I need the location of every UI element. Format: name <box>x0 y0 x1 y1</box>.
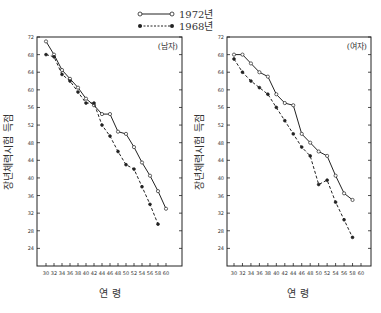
y-axis-title: 장년체력시험 득점 <box>194 114 205 189</box>
x-tick-label: 36 <box>256 270 262 276</box>
y-tick-label: 36 <box>218 193 224 199</box>
y-tick-label: 44 <box>218 157 224 163</box>
plot-frame <box>227 37 371 266</box>
filled-circle-icon <box>266 93 269 96</box>
x-tick-label: 52 <box>131 270 137 276</box>
filled-circle-icon <box>45 53 48 56</box>
filled-circle-icon <box>170 24 174 28</box>
x-tick-label: 50 <box>315 270 321 276</box>
open-circle-icon <box>140 161 143 164</box>
x-tick-label: 48 <box>115 270 121 276</box>
x-tick-label: 60 <box>358 270 364 276</box>
open-circle-icon <box>326 154 329 157</box>
open-circle-icon <box>60 68 63 71</box>
open-circle-icon <box>275 93 278 96</box>
y-tick-label: 40 <box>218 175 224 181</box>
x-tick-label: 58 <box>155 270 161 276</box>
y-tick-label: 28 <box>218 228 224 234</box>
y-tick-label: 72 <box>218 34 224 40</box>
y-tick-label: 36 <box>28 193 34 199</box>
filled-circle-icon <box>343 218 346 221</box>
x-tick-label: 58 <box>349 270 355 276</box>
y-tick-label: 64 <box>218 69 224 75</box>
x-tick-label: 54 <box>139 270 145 276</box>
open-circle-icon <box>309 141 312 144</box>
y-tick-label: 44 <box>28 157 34 163</box>
open-circle-icon <box>351 198 354 201</box>
x-tick-label: 34 <box>248 270 254 276</box>
x-tick-label: 30 <box>231 270 237 276</box>
filled-circle-icon <box>109 135 112 138</box>
legend-label-1968: 1968년 <box>179 21 213 32</box>
filled-circle-icon <box>351 236 354 239</box>
filled-circle-icon <box>77 91 80 94</box>
filled-circle-icon <box>250 80 253 83</box>
plot-frame <box>37 37 182 266</box>
y-tick-label: 72 <box>28 34 34 40</box>
x-tick-label: 46 <box>107 270 113 276</box>
open-circle-icon <box>84 97 87 100</box>
filled-circle-icon <box>53 55 56 58</box>
x-tick-label: 42 <box>91 270 97 276</box>
series-line-1972 <box>46 41 166 208</box>
y-tick-label: 64 <box>28 69 34 75</box>
x-axis-title: 연 령 <box>99 288 120 299</box>
open-circle-icon <box>100 112 103 115</box>
y-tick-label: 24 <box>28 245 34 251</box>
filled-circle-icon <box>138 24 142 28</box>
x-tick-label: 32 <box>239 270 245 276</box>
series-line-1968 <box>234 59 353 237</box>
y-tick-label: 32 <box>28 210 34 216</box>
filled-circle-icon <box>149 203 152 206</box>
open-circle-icon <box>132 145 135 148</box>
y-tick-label: 52 <box>28 122 34 128</box>
open-circle-icon <box>138 12 142 16</box>
panel-title: (남자) <box>158 42 178 51</box>
filled-circle-icon <box>241 71 244 74</box>
x-tick-label: 40 <box>273 270 279 276</box>
filled-circle-icon <box>133 168 136 171</box>
x-tick-label: 38 <box>265 270 271 276</box>
x-tick-label: 32 <box>51 270 57 276</box>
filled-circle-icon <box>101 124 104 127</box>
x-tick-label: 40 <box>83 270 89 276</box>
filled-circle-icon <box>69 80 72 83</box>
x-tick-label: 34 <box>59 270 65 276</box>
x-tick-label: 54 <box>332 270 338 276</box>
chart-panel-female: 7268646056524844403632282430323436384042… <box>194 34 371 299</box>
chart-panel-male: 7268646056524844403632282430323436384042… <box>3 34 182 299</box>
y-tick-label: 68 <box>28 52 34 58</box>
y-tick-label: 52 <box>218 122 224 128</box>
y-tick-label: 60 <box>218 87 224 93</box>
x-tick-label: 44 <box>290 270 296 276</box>
panel-title: (여자) <box>347 41 367 51</box>
open-circle-icon <box>258 71 261 74</box>
legend: 1972년 1968년 <box>138 9 213 32</box>
filled-circle-icon <box>326 179 329 182</box>
x-tick-label: 52 <box>324 270 330 276</box>
y-tick-label: 24 <box>218 245 224 251</box>
open-circle-icon <box>116 130 119 133</box>
filled-circle-icon <box>93 102 96 105</box>
filled-circle-icon <box>117 150 120 153</box>
open-circle-icon <box>108 112 111 115</box>
legend-label-1972: 1972년 <box>179 9 213 20</box>
filled-circle-icon <box>85 102 88 105</box>
open-circle-icon <box>292 104 295 107</box>
y-axis-title: 장년체력시험 득점 <box>3 114 14 189</box>
x-tick-label: 30 <box>43 270 49 276</box>
open-circle-icon <box>148 174 151 177</box>
open-circle-icon <box>232 53 235 56</box>
y-tick-label: 48 <box>218 140 224 146</box>
legend-item-1968: 1968년 <box>138 21 213 32</box>
filled-circle-icon <box>300 146 303 149</box>
filled-circle-icon <box>334 201 337 204</box>
open-circle-icon <box>76 86 79 89</box>
y-tick-label: 28 <box>28 228 34 234</box>
filled-circle-icon <box>125 163 128 166</box>
x-tick-label: 36 <box>67 270 73 276</box>
series-line-1972 <box>234 55 353 200</box>
open-circle-icon <box>334 174 337 177</box>
x-axis-title: 연 령 <box>287 288 308 299</box>
open-circle-icon <box>170 12 174 16</box>
